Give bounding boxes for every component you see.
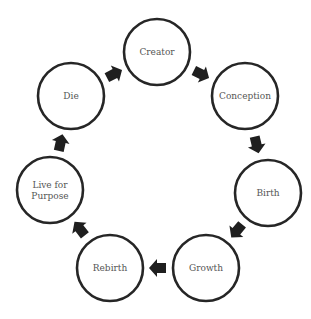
node-label: Rebirth <box>93 263 128 273</box>
node-label: Die <box>63 91 78 101</box>
node-live-for-purpose: Live forPurpose <box>17 157 83 223</box>
node-birth: Birth <box>235 160 301 226</box>
node-label: Birth <box>256 188 279 198</box>
node-label: Live for <box>32 180 68 190</box>
arrow-creator-to-conception <box>190 62 213 86</box>
arrow-growth-to-rebirth <box>149 259 166 277</box>
node-label: Purpose <box>31 191 68 201</box>
node-creator: Creator <box>124 19 190 85</box>
arrow-rebirth-to-live-for-purpose <box>67 216 92 240</box>
node-growth: Growth <box>173 235 239 301</box>
node-conception: Conception <box>212 63 278 129</box>
arrow-die-to-creator <box>103 62 126 86</box>
node-label: Growth <box>189 263 223 273</box>
cycle-diagram: CreatorConceptionBirthGrowthRebirthLive … <box>0 0 311 319</box>
arrow-live-for-purpose-to-die <box>50 132 71 153</box>
nodes-layer: CreatorConceptionBirthGrowthRebirthLive … <box>17 19 301 301</box>
node-rebirth: Rebirth <box>77 235 143 301</box>
arrow-conception-to-birth <box>246 135 267 156</box>
node-label: Creator <box>139 47 175 57</box>
node-label: Conception <box>219 91 271 101</box>
arrow-birth-to-growth <box>224 219 249 244</box>
node-die: Die <box>38 63 104 129</box>
